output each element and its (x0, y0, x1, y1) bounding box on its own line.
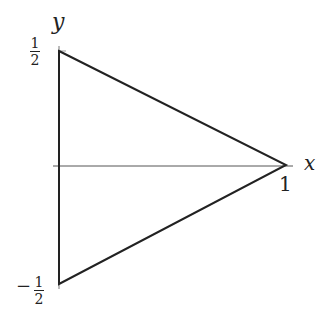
y-axis-label: y (52, 9, 64, 34)
frac-numerator: 1 (31, 36, 40, 50)
x-axis-label: x (304, 151, 315, 175)
triangle-diagram: y 1 2 − 1 2 x 1 (0, 0, 334, 320)
triangle-region (59, 51, 286, 284)
frac-denominator: 2 (35, 292, 44, 306)
y-tick-label-bottom: 1 2 (34, 275, 44, 306)
minus-sign: − (16, 275, 31, 296)
y-tick-label-top: 1 2 (30, 36, 40, 67)
diagram-canvas (0, 0, 334, 320)
frac-numerator: 1 (35, 275, 44, 289)
x-tick-label-1: 1 (279, 172, 292, 196)
frac-denominator: 2 (31, 53, 40, 67)
